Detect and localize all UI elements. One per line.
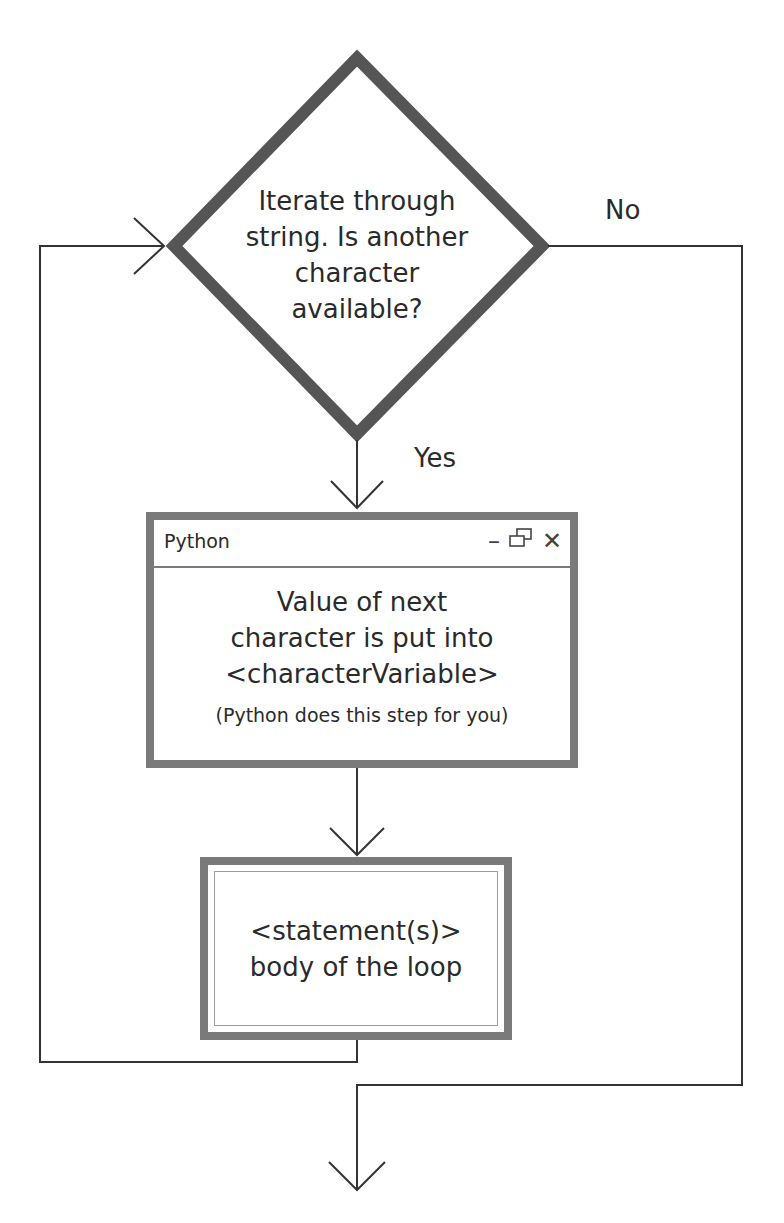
restore-icon [508,526,534,556]
yes-branch-label: Yes [414,443,456,473]
python-step-line: character is put into [154,620,570,656]
statement-line: <statement(s)> [250,913,461,949]
statement-step-box: <statement(s)> body of the loop [200,857,512,1040]
python-step-line: <characterVariable> [154,656,570,692]
python-step-body: Value of next character is put into <cha… [154,568,570,726]
python-step-note: (Python does this step for you) [154,704,570,726]
decision-line: string. Is another [218,219,496,255]
restore-glyph [508,527,534,549]
statement-line: body of the loop [250,949,462,985]
python-step-window: Python – ✕ Value of next character is pu… [146,512,578,768]
decision-line: available? [218,291,496,327]
window-controls: – ✕ [488,526,562,556]
statement-step-inner: <statement(s)> body of the loop [214,871,498,1026]
decision-line: character [218,255,496,291]
window-titlebar: Python – ✕ [154,520,570,568]
decision-text: Iterate through string. Is another chara… [218,183,496,327]
window-title: Python [164,530,230,552]
no-branch-label: No [605,195,640,225]
decision-line: Iterate through [218,183,496,219]
python-step-line: Value of next [154,584,570,620]
minimize-icon: – [488,526,500,556]
close-icon: ✕ [542,526,562,556]
